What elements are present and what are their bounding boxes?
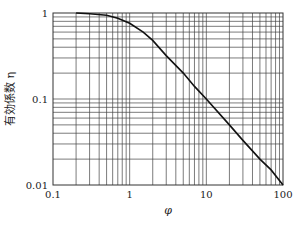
- y-tick-label: 1: [42, 8, 48, 19]
- y-axis-label: 有効係数 η: [3, 72, 17, 126]
- x-tick-labels: 0.1110100: [45, 189, 293, 200]
- log-log-chart: 0.1110100 0.010.11 φ 有効係数 η: [0, 0, 298, 226]
- x-tick-label: 1: [126, 189, 132, 200]
- x-tick-label: 10: [200, 189, 213, 200]
- grid-lines: [53, 13, 283, 185]
- y-tick-labels: 0.010.11: [26, 8, 48, 191]
- y-tick-label: 0.1: [32, 94, 48, 105]
- x-tick-label: 100: [273, 189, 292, 200]
- x-tick-label: 0.1: [45, 189, 61, 200]
- x-axis-label: φ: [164, 204, 172, 217]
- y-tick-label: 0.01: [26, 180, 48, 191]
